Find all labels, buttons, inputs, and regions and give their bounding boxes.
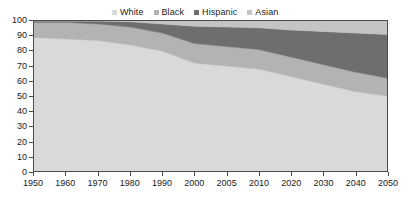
- x-tick-label: 2050: [378, 178, 398, 188]
- legend-item-white[interactable]: White: [112, 7, 144, 17]
- area-series-group: [34, 21, 387, 171]
- y-tick-label: 60: [17, 76, 27, 85]
- chart-legend: White Black Hispanic Asian: [112, 5, 312, 19]
- x-tick-mark: [194, 172, 195, 176]
- y-tick-label: 0: [22, 168, 27, 177]
- y-tick-label: 20: [17, 137, 27, 146]
- legend-swatch-black: [154, 10, 159, 15]
- x-tick-label: 2040: [346, 178, 366, 188]
- plot-area: [33, 20, 388, 172]
- x-tick-label: 2020: [281, 178, 301, 188]
- y-tick-label: 40: [17, 107, 27, 116]
- x-tick-mark: [162, 172, 163, 176]
- y-tick-label: 50: [17, 92, 27, 101]
- x-tick-mark: [323, 172, 324, 176]
- y-tick-label: 100: [12, 16, 27, 25]
- x-tick-label: 1960: [55, 178, 75, 188]
- y-tick-label: 80: [17, 46, 27, 55]
- x-tick-label: 2030: [313, 178, 333, 188]
- legend-swatch-asian: [247, 10, 252, 15]
- x-tick-label: 1980: [120, 178, 140, 188]
- x-tick-mark: [291, 172, 292, 176]
- y-axis: 0102030405060708090100: [0, 20, 33, 172]
- x-tick-label: 2010: [249, 178, 269, 188]
- x-tick-mark: [130, 172, 131, 176]
- legend-swatch-hispanic: [194, 10, 199, 15]
- y-tick-label: 30: [17, 122, 27, 131]
- x-tick-label: 1950: [23, 178, 43, 188]
- x-tick-mark: [65, 172, 66, 176]
- x-axis: 1950196019701980199020002005201020202030…: [33, 172, 388, 197]
- x-tick-label: 1970: [88, 178, 108, 188]
- y-tick-label: 90: [17, 31, 27, 40]
- x-tick-mark: [259, 172, 260, 176]
- legend-item-asian[interactable]: Asian: [247, 7, 278, 17]
- y-tick-label: 70: [17, 61, 27, 70]
- x-tick-mark: [227, 172, 228, 176]
- legend-item-black[interactable]: Black: [154, 7, 185, 17]
- x-tick-mark: [356, 172, 357, 176]
- x-tick-label: 2000: [184, 178, 204, 188]
- legend-label-white: White: [120, 7, 144, 17]
- legend-swatch-white: [112, 10, 117, 15]
- x-tick-label: 1990: [152, 178, 172, 188]
- x-tick-label: 2005: [217, 178, 237, 188]
- y-tick-label: 10: [17, 152, 27, 161]
- legend-label-hispanic: Hispanic: [202, 7, 237, 17]
- x-tick-mark: [388, 172, 389, 176]
- legend-label-black: Black: [162, 7, 185, 17]
- legend-item-hispanic[interactable]: Hispanic: [194, 7, 237, 17]
- x-tick-mark: [98, 172, 99, 176]
- x-tick-mark: [33, 172, 34, 176]
- legend-label-asian: Asian: [255, 7, 278, 17]
- stacked-area-chart: White Black Hispanic Asian 0102030405060…: [0, 0, 419, 197]
